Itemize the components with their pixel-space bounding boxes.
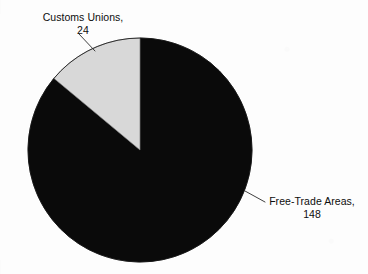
pie-label-customs-unions-name: Customs Unions,: [25, 11, 141, 24]
leader-line-free-trade-areas: [245, 191, 265, 202]
pie-label-free-trade-areas: Free-Trade Areas, 148: [265, 195, 359, 220]
pie-chart-canvas: [0, 0, 368, 274]
pie-label-customs-unions-value: 24: [25, 24, 141, 37]
leader-line-customs-unions: [79, 34, 95, 51]
pie-label-free-trade-areas-name: Free-Trade Areas,: [265, 195, 359, 208]
pie-label-customs-unions: Customs Unions, 24: [25, 11, 141, 36]
pie-chart-figure: Customs Unions, 24 Free-Trade Areas, 148: [0, 0, 368, 274]
pie-label-free-trade-areas-value: 148: [265, 208, 359, 221]
